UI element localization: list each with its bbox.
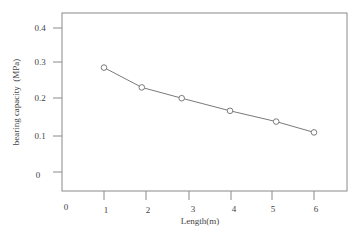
- data-point-marker: [273, 119, 279, 125]
- x-tick-label: 0: [64, 202, 69, 212]
- x-axis: 0 1 2 3 4 5 6 Length(m): [64, 191, 319, 226]
- x-tick-label: 6: [314, 204, 319, 214]
- data-point-marker: [311, 130, 317, 136]
- data-series: [101, 65, 317, 135]
- line-chart: 0.4 0.3 0.2 0.1 0 bearing capacity (MPa)…: [0, 0, 361, 240]
- data-point-marker: [101, 65, 107, 71]
- series-line: [104, 68, 314, 133]
- x-tick-label: 5: [271, 204, 276, 214]
- x-tick-label: 3: [191, 204, 196, 214]
- data-point-marker: [179, 95, 185, 101]
- plot-frame: [62, 13, 347, 191]
- x-axis-title: Length(m): [181, 216, 220, 226]
- y-axis: 0.4 0.3 0.2 0.1 0 bearing capacity (MPa): [11, 23, 62, 180]
- y-tick-label: 0: [36, 170, 41, 180]
- y-tick-label: 0.1: [34, 131, 45, 141]
- y-tick-label: 0.4: [34, 23, 46, 33]
- x-tick-label: 4: [232, 204, 237, 214]
- data-point-marker: [139, 85, 145, 91]
- data-point-marker: [227, 108, 233, 114]
- x-tick-label: 1: [104, 205, 109, 215]
- y-axis-title: bearing capacity (MPa): [11, 59, 21, 146]
- y-tick-label: 0.3: [34, 57, 46, 67]
- y-tick-label: 0.2: [34, 93, 45, 103]
- x-tick-label: 2: [146, 205, 151, 215]
